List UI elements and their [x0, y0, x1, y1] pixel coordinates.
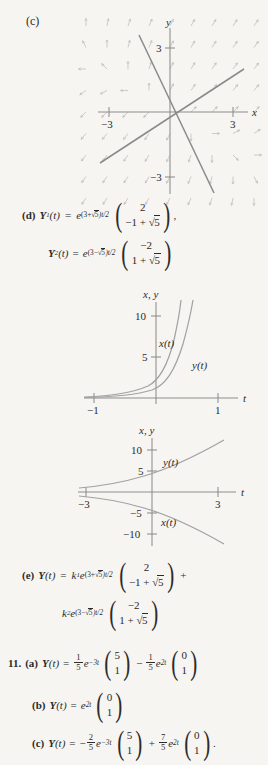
- left-paren: (: [122, 239, 129, 267]
- vector-entry-top: 0: [107, 690, 113, 705]
- solution-arg: (t): [49, 657, 59, 669]
- t-tick-label-1: 1: [215, 404, 221, 416]
- right-paren: ): [115, 691, 122, 719]
- axis-label-xy: x, y: [142, 288, 158, 300]
- exp-power-post: )t/2: [99, 211, 109, 219]
- exp-power-pre: (3−: [75, 609, 85, 617]
- plus-sign: +: [180, 569, 186, 581]
- part-d-solution-2: Y2(t) = e(3−√5)t/2 ( −2 1 + √5 ): [48, 238, 174, 267]
- solution-arg: (t): [56, 699, 66, 711]
- left-paren: (: [119, 561, 126, 589]
- textbook-answer-page: (c) x y −3 3 3 −3: [0, 0, 268, 765]
- equals-sign: =: [73, 247, 79, 259]
- phase-portrait-plot: x y −3 3 3 −3: [88, 18, 266, 198]
- part-b-label: (b): [32, 699, 45, 711]
- exp-power: −3t: [101, 739, 112, 747]
- exp-power-pre: (3−: [88, 249, 98, 257]
- solution-2-arg: (t): [58, 247, 68, 259]
- vector-entry-bottom: −1 + √5: [129, 575, 164, 590]
- part-e-line-1: (e) Y(t) = k1e(3+√5)t/2 ( 2 −1 + √5 ) +: [22, 560, 186, 589]
- right-paren: ): [135, 729, 142, 757]
- coefficient-fraction: 2 5: [87, 733, 95, 751]
- vector-entry-top: 0: [182, 648, 188, 663]
- left-paren: (: [171, 649, 178, 677]
- coefficient-fraction: 1 5: [74, 653, 82, 671]
- graph-1-plot: x, y t 10 5 −1 1 x(t) y(t): [80, 288, 260, 406]
- y-tick-label-5: 5: [138, 465, 144, 477]
- column-vector-2: ( −2 1 + √5 ): [119, 238, 172, 267]
- vector-entry-bottom: 1 + √5: [132, 253, 161, 268]
- solution-name: Y: [42, 657, 49, 669]
- right-paren: ): [123, 649, 130, 677]
- equals-sign: =: [69, 737, 75, 749]
- y-tick-label-10: 10: [131, 444, 143, 456]
- right-paren: ): [163, 201, 170, 229]
- axis-label-xy: x, y: [138, 424, 154, 436]
- exp-power-2: 2t: [173, 739, 179, 747]
- minus-sign: −: [136, 657, 142, 669]
- vector-entry-top: 5: [127, 728, 133, 743]
- vector-entry-bottom: −1 + √5: [125, 215, 160, 230]
- left-paren: (: [184, 729, 191, 757]
- vector-entry-top: −2: [140, 238, 152, 253]
- vector-entry-bottom: 1: [194, 743, 200, 758]
- solution-name: Y: [38, 569, 45, 581]
- column-vector-1: ( 5 1 ): [102, 648, 132, 677]
- right-paren: ): [190, 649, 197, 677]
- y-tick-label-neg5: −5: [130, 507, 142, 519]
- curve-label-x: x(t): [160, 516, 177, 529]
- coefficient-fraction-2: 7 5: [159, 733, 167, 751]
- straight-line-solution-1: [100, 69, 244, 163]
- left-paren: (: [117, 729, 124, 757]
- coefficient-fraction-2: 1 5: [146, 653, 154, 671]
- left-paren: (: [109, 599, 116, 627]
- right-paren: ): [203, 729, 210, 757]
- part-d-label: (d): [22, 209, 35, 221]
- trailing-period: .: [213, 737, 216, 749]
- vector-entry-top: 2: [140, 200, 146, 215]
- solution-name: Y: [49, 699, 56, 711]
- x-tick-label-neg3: −3: [101, 118, 113, 130]
- problem-11b: (b) Y(t) = e2t ( 0 1 ): [32, 690, 125, 719]
- plus-sign: +: [149, 737, 155, 749]
- vector-entry-top: 0: [194, 728, 200, 743]
- graph-2-plot: x, y t 10 5 −5 −10 −3 3 y(t) x(t): [72, 424, 262, 552]
- minus-sign: −: [80, 737, 86, 749]
- column-vector-2: ( −2 1 + √5 ): [107, 598, 160, 627]
- exp-power-pre: (3+: [81, 211, 91, 219]
- t-tick-label-neg1: −1: [87, 404, 99, 416]
- graph-2-svg: x, y t 10 5 −5 −10 −3 3 y(t) x(t): [72, 424, 262, 552]
- t-tick-label-3: 3: [215, 498, 221, 510]
- solution-arg: (t): [45, 569, 55, 581]
- part-e-label: (e): [22, 569, 34, 581]
- vector-entry-bottom: 1: [182, 663, 188, 678]
- column-vector-1: ( 5 1 ): [115, 728, 145, 757]
- straight-line-solution-2: [139, 35, 214, 193]
- right-paren: ): [164, 239, 171, 267]
- vector-entry-bottom: 1: [114, 663, 120, 678]
- part-d-solution-1: (d) Y1(t) = e(3+√5)t/2 ( 2 −1 + √5 ) ,: [22, 200, 176, 229]
- problem-11c: (c) Y(t) = − 2 5 e−3t ( 5 1 ) +: [32, 728, 216, 757]
- exp-power-post: )t/2: [103, 571, 113, 579]
- column-vector-1: ( 2 −1 + √5 ): [113, 200, 173, 229]
- part-e-line-2: k2e(3−√5)t/2 ( −2 1 + √5 ): [62, 598, 161, 627]
- part-a-label: (a): [25, 657, 38, 669]
- column-vector-1: ( 2 −1 + √5 ): [117, 560, 177, 589]
- exp-power-pre: (3+: [85, 571, 95, 579]
- exp-power-2: 2t: [161, 659, 167, 667]
- axis-label-y: y: [165, 16, 171, 28]
- axis-label-t: t: [243, 392, 247, 404]
- equals-sign: =: [65, 209, 71, 221]
- y-tick-label-10: 10: [135, 310, 147, 322]
- column-vector-2: ( 0 1 ): [182, 728, 212, 757]
- solution-1-arg: (t): [50, 209, 60, 221]
- trailing-comma: ,: [174, 209, 177, 221]
- left-paren: (: [104, 649, 111, 677]
- right-paren: ): [151, 599, 158, 627]
- phase-portrait-svg: x y −3 3 3 −3: [88, 18, 266, 198]
- left-paren: (: [96, 691, 103, 719]
- column-vector-2: ( 0 1 ): [169, 648, 199, 677]
- y-tick-label-3: 3: [156, 42, 162, 54]
- equals-sign: =: [71, 699, 77, 711]
- graph-1-svg: x, y t 10 5 −1 1 x(t) y(t): [80, 288, 260, 406]
